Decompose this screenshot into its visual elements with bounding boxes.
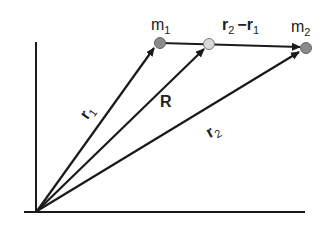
label-r2: r2 (203, 120, 224, 144)
label-R: R (160, 93, 172, 110)
vector-diagram: m1 m2 r2−r1 R r1 r2 (0, 0, 333, 226)
label-r1: r1 (76, 102, 99, 124)
label-m1: m1 (151, 16, 170, 36)
vector-r1 (37, 48, 154, 211)
label-m2: m2 (291, 18, 310, 38)
vector-r2 (37, 52, 299, 211)
mass-m1 (155, 38, 166, 49)
vector-R (37, 49, 204, 211)
mass-m2 (301, 43, 312, 54)
center-of-mass (204, 39, 215, 50)
label-r2-minus-r1: r2−r1 (222, 16, 259, 36)
vector-r2-minus-r1 (161, 43, 300, 47)
